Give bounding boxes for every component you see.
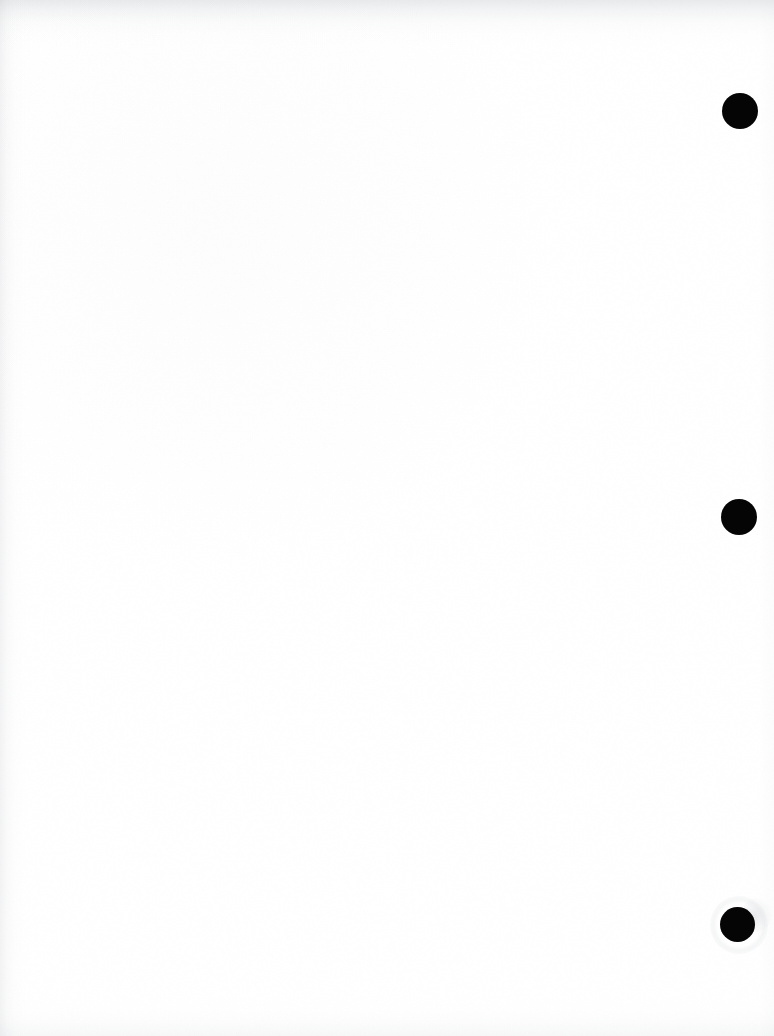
registration-dot-bottom [720, 907, 755, 942]
paper-background [0, 0, 774, 1036]
scanned-page [0, 0, 774, 1036]
registration-dot-top [722, 93, 758, 129]
registration-dot-middle [721, 499, 757, 535]
